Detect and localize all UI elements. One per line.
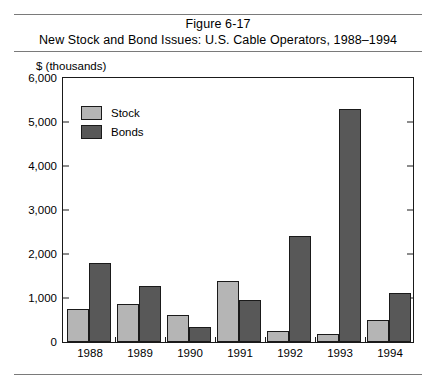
bar-bonds-1993 [339, 109, 361, 342]
y-axis-tick-label: 3,000 [28, 204, 57, 216]
bar-stock-1990 [167, 315, 189, 342]
y-axis-tick-label: 6,000 [28, 72, 57, 84]
header-rule-bottom [14, 51, 422, 52]
bar-stock-1993 [317, 334, 339, 342]
bar-bonds-1994 [389, 293, 411, 342]
figure-number: Figure 6-17 [14, 16, 422, 32]
footer-rule [14, 374, 422, 375]
bar-group: 1994 [365, 78, 415, 342]
x-axis-tick-label: 1988 [65, 347, 115, 359]
x-axis-tick-label: 1990 [165, 347, 215, 359]
bar-bonds-1990 [189, 327, 211, 342]
x-axis-tick-label: 1991 [215, 347, 265, 359]
bar-group: 1993 [315, 78, 365, 342]
figure-title: Figure 6-17 New Stock and Bond Issues: U… [14, 16, 422, 48]
x-axis-tick-label: 1993 [315, 347, 365, 359]
bar-group: 1991 [215, 78, 265, 342]
bar-stock-1991 [217, 281, 239, 342]
y-axis-unit-label: $ (thousands) [36, 60, 106, 72]
x-axis-tick-label: 1989 [115, 347, 165, 359]
bar-group: 1992 [265, 78, 315, 342]
y-axis-tick-label: 0 [51, 336, 57, 348]
header-rule-top [14, 14, 422, 15]
y-axis-tick-label: 1,000 [28, 292, 57, 304]
bar-bonds-1989 [139, 286, 161, 342]
x-axis-tick-label: 1992 [265, 347, 315, 359]
bar-stock-1988 [67, 309, 89, 342]
bar-stock-1989 [117, 304, 139, 342]
bar-group: 1990 [165, 78, 215, 342]
y-axis-tick-label: 2,000 [28, 248, 57, 260]
bar-bonds-1988 [89, 263, 111, 342]
chart-plot-area: Stock Bonds 6,0005,0004,0003,0002,0001,0… [62, 77, 414, 343]
figure-caption: New Stock and Bond Issues: U.S. Cable Op… [14, 32, 422, 48]
figure-container: Figure 6-17 New Stock and Bond Issues: U… [0, 0, 436, 385]
bar-stock-1992 [267, 331, 289, 342]
bar-group: 1989 [115, 78, 165, 342]
x-axis-tick-label: 1994 [365, 347, 415, 359]
y-axis-tick-label: 5,000 [28, 116, 57, 128]
bar-bonds-1991 [239, 300, 261, 342]
bar-group: 1988 [65, 78, 115, 342]
bar-bonds-1992 [289, 236, 311, 342]
y-axis-tick-label: 4,000 [28, 160, 57, 172]
bar-stock-1994 [367, 320, 389, 342]
bars-layer: 1988198919901991199219931994 [63, 78, 413, 342]
